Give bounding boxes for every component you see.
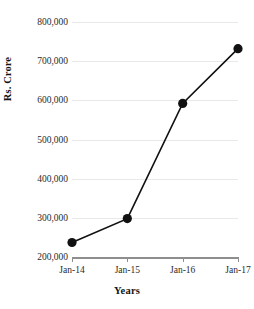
x-axis-title: Years [0, 285, 254, 296]
series-layer [0, 0, 254, 309]
series-line [72, 49, 238, 243]
data-point-marker [123, 214, 132, 223]
data-point-marker [67, 238, 76, 247]
line-chart: Rs. Crore 200,000300,000400,000500,00060… [0, 0, 254, 309]
data-point-marker [178, 99, 187, 108]
data-point-marker [233, 44, 242, 53]
